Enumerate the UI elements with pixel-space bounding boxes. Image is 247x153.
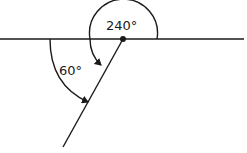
vertex-point — [120, 36, 126, 42]
label-60: 60° — [59, 63, 82, 78]
angle-diagram: 240° 60° — [0, 0, 247, 153]
label-240: 240° — [106, 18, 137, 33]
diagram-svg: 240° 60° — [0, 0, 247, 153]
